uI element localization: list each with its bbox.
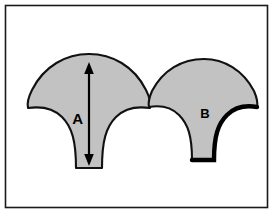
shape-label-b: B [200, 106, 209, 121]
fan-shapes-diagram: A B [0, 0, 274, 218]
diagram-canvas: A B [0, 0, 274, 218]
shape-label-a: A [72, 110, 83, 127]
